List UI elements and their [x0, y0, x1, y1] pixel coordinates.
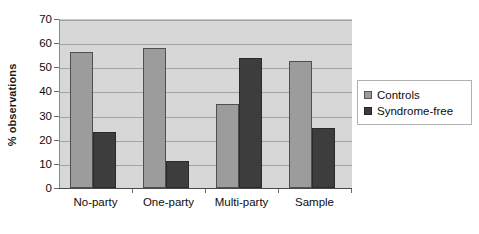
- y-axis-tick-label: 60: [22, 37, 52, 49]
- y-axis-title: % observations: [2, 40, 22, 170]
- x-axis-tick-mark: [351, 189, 352, 193]
- chart-legend: ControlsSyndrome-free: [357, 80, 472, 125]
- legend-item: Controls: [364, 87, 467, 102]
- y-axis-tick-label: 20: [22, 134, 52, 146]
- y-axis-tick-label: 30: [22, 110, 52, 122]
- bar-syndrome-free-no-party: [93, 132, 116, 188]
- x-axis-category-label: One-party: [132, 196, 205, 208]
- x-axis-tick-marks: [59, 189, 352, 194]
- bar-syndrome-free-one-party: [166, 161, 189, 188]
- x-axis-category-label: Sample: [278, 196, 351, 208]
- x-axis-category-label: No-party: [59, 196, 132, 208]
- bar-controls-one-party: [143, 48, 166, 188]
- bar-syndrome-free-sample: [312, 128, 335, 188]
- y-axis-tick-label: 0: [22, 182, 52, 194]
- x-axis-tick-mark: [278, 189, 279, 193]
- x-axis-category-label: Multi-party: [205, 196, 278, 208]
- y-axis-title-text: % observations: [6, 64, 18, 147]
- y-axis-tick-label: 40: [22, 85, 52, 97]
- bars-layer: [59, 19, 351, 188]
- bar-controls-multi-party: [216, 104, 239, 189]
- y-axis-tick-labels: 010203040506070: [22, 12, 52, 194]
- x-axis-tick-mark: [132, 189, 133, 193]
- legend-item: Syndrome-free: [364, 103, 467, 118]
- x-axis-tick-mark: [205, 189, 206, 193]
- x-axis-category-labels: No-partyOne-partyMulti-partySample: [59, 196, 351, 216]
- bar-syndrome-free-multi-party: [239, 58, 262, 188]
- y-axis-tick-label: 70: [22, 13, 52, 25]
- bar-controls-sample: [289, 61, 312, 188]
- legend-item-label: Syndrome-free: [377, 105, 453, 117]
- legend-item-label: Controls: [377, 89, 420, 101]
- syndrome-free-swatch: [364, 107, 372, 115]
- y-axis-tick-label: 10: [22, 158, 52, 170]
- bar-chart: % observations 010203040506070 No-partyO…: [0, 0, 479, 234]
- y-axis-tick-label: 50: [22, 61, 52, 73]
- controls-swatch: [364, 91, 372, 99]
- bar-controls-no-party: [70, 52, 93, 188]
